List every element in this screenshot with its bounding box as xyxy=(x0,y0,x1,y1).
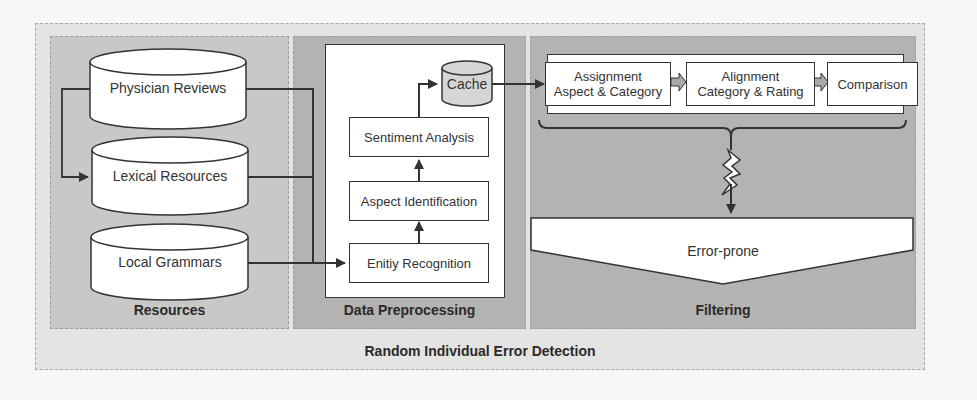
arrow-alignment-to-comparison xyxy=(814,73,828,91)
resources-panel-label: Resources xyxy=(50,302,289,318)
brace-under-steps xyxy=(539,120,906,136)
step-alignment: Alignment Category & Rating xyxy=(686,62,815,106)
error-prone-label: Error-prone xyxy=(623,243,823,259)
cache-label: Cache xyxy=(442,76,492,92)
arrow-assignment-to-alignment xyxy=(671,73,686,91)
step-sentiment-analysis: Sentiment Analysis xyxy=(349,117,489,157)
step-comparison: Comparison xyxy=(827,62,918,106)
diagram-title: Random Individual Error Detection xyxy=(35,343,925,359)
step-alignment-line2: Category & Rating xyxy=(697,84,803,99)
step-aspect-identification: Aspect Identification xyxy=(349,181,489,221)
db-label-physician-reviews: Physician Reviews xyxy=(88,80,248,96)
arrow-sentiment-to-cache xyxy=(419,84,437,117)
db-label-local-grammars: Local Grammars xyxy=(90,254,250,270)
arrow-reviews-to-lexical xyxy=(62,89,90,177)
filtering-panel-label: Filtering xyxy=(530,302,916,318)
step-assignment-line1: Assignment xyxy=(574,69,642,84)
db-label-lexical-resources: Lexical Resources xyxy=(90,168,250,184)
step-assignment: Assignment Aspect & Category xyxy=(545,62,671,106)
step-assignment-line2: Aspect & Category xyxy=(554,84,662,99)
step-entity-recognition: Enitiy Recognition xyxy=(349,243,489,283)
preprocessing-panel-label: Data Preprocessing xyxy=(293,302,526,318)
step-alignment-line1: Alignment xyxy=(722,69,780,84)
